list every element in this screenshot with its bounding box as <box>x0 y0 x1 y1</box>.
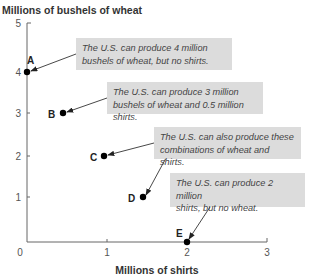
y-tick-2: 2 <box>15 151 21 162</box>
point-d <box>140 194 146 200</box>
annotation-b: The U.S. can produce 3 million bushels o… <box>107 82 263 114</box>
arrow-to-a <box>31 54 76 71</box>
x-axis-title: Millions of shirts <box>0 264 310 276</box>
y-tick-1: 1 <box>15 192 21 203</box>
y-tick-3: 3 <box>15 108 21 119</box>
annotation-e: The U.S. can produce 2 million shirts, b… <box>170 173 305 207</box>
point-label-c: C <box>90 152 97 163</box>
x-tick-3: 3 <box>264 247 270 258</box>
annotation-b-line2: bushels of wheat and 0.5 million shirts. <box>113 99 257 124</box>
point-label-a: A <box>27 55 34 66</box>
arrow-to-b <box>67 98 107 112</box>
annotation-e-line2: shirts, but no wheat. <box>176 202 299 215</box>
point-label-e: E <box>176 228 183 239</box>
annotation-a-line2: bushels of wheat, but no shirts. <box>82 55 226 68</box>
arrow-to-c <box>108 143 154 155</box>
x-tick-2: 2 <box>184 247 190 258</box>
y-tick-5: 5 <box>15 18 21 29</box>
point-label-d: D <box>128 193 135 204</box>
annotation-cd: The U.S. can also produce these combinat… <box>154 127 301 159</box>
annotation-e-line1: The U.S. can produce 2 million <box>176 177 299 202</box>
y-tick-4: 4 <box>15 67 21 78</box>
x-tick-1: 1 <box>104 247 110 258</box>
annotation-a: The U.S. can produce 4 million bushels o… <box>76 38 232 70</box>
annotation-b-line1: The U.S. can produce 3 million <box>113 86 257 99</box>
point-b <box>60 110 66 116</box>
annotation-cd-line1: The U.S. can also produce these <box>160 131 295 144</box>
point-a <box>24 69 30 75</box>
point-c <box>101 153 107 159</box>
x-tick-0: 0 <box>17 247 23 258</box>
annotation-a-line1: The U.S. can produce 4 million <box>82 42 226 55</box>
point-e <box>184 239 190 245</box>
annotation-cd-line2: combinations of wheat and shirts. <box>160 144 295 169</box>
point-label-b: B <box>48 109 55 120</box>
